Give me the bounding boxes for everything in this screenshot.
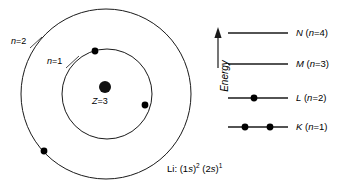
leader-line-n1 bbox=[66, 56, 79, 68]
bohr-model-figure: n=2 n=1 Z=3 Li: (1s)2 (2s)1 Energy N (n=… bbox=[0, 0, 354, 187]
energy-level-label-L: L (n=2) bbox=[296, 93, 326, 103]
energy-level-label-M: M (n=3) bbox=[296, 59, 329, 69]
electron-inner-2 bbox=[142, 102, 149, 109]
energy-level-label-K: K (n=1) bbox=[296, 122, 327, 132]
shell-label-n1: n=1 bbox=[47, 57, 62, 66]
electron-configuration-caption: Li: (1s)2 (2s)1 bbox=[167, 163, 222, 174]
nucleus-charge-label: Z=3 bbox=[92, 97, 108, 106]
shell-label-n2: n=2 bbox=[11, 37, 26, 46]
electron-level-K-2 bbox=[267, 124, 274, 131]
nucleus bbox=[99, 81, 111, 93]
energy-level-label-N: N (n=4) bbox=[296, 28, 328, 38]
orbit-shell-n2 bbox=[21, 9, 191, 179]
electron-inner-1 bbox=[92, 48, 99, 55]
electron-outer-1 bbox=[41, 148, 48, 155]
energy-axis-label: Energy bbox=[220, 50, 230, 102]
electron-level-L-1 bbox=[251, 95, 258, 102]
orbit-shell-n1 bbox=[62, 49, 152, 139]
electron-level-K-1 bbox=[242, 124, 249, 131]
atom-diagram-group bbox=[21, 9, 191, 179]
energy-axis-arrow-head bbox=[214, 27, 221, 38]
